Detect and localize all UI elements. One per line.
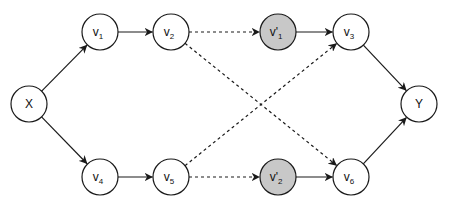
node-label-subscript: 5 [170,177,175,186]
node-label-subscript: 2 [170,32,175,41]
node-v6: v6 [333,159,369,195]
edge-v3-Y [363,45,406,90]
node-label: Y [415,97,423,111]
node-label-subscript: 6 [350,177,355,186]
edge-v5-v3 [185,44,337,166]
node-label-subscript: 1 [278,32,283,41]
node-label-base: X [25,97,33,111]
node-label-subscript: 3 [350,32,355,41]
node-label-base: v' [270,170,278,184]
edge-X-v1 [42,45,87,91]
node-label-subscript: 4 [99,177,104,186]
node-label-subscript: 2 [278,177,283,186]
edges-layer [42,32,407,177]
node-v3: v3 [333,14,369,50]
node-v1p: v'1 [260,14,296,50]
node-v5: v5 [153,159,189,195]
node-v4: v4 [82,159,118,195]
nodes-layer: Xv1v2v'1v3Yv4v5v'2v6 [11,14,437,195]
node-v1: v1 [82,14,118,50]
graph-diagram: Xv1v2v'1v3Yv4v5v'2v6 [0,0,449,209]
node-label: X [25,97,33,111]
node-label-base: Y [415,97,423,111]
edge-X-v4 [42,117,88,164]
node-v2: v2 [153,14,189,50]
node-label-subscript: 1 [99,32,104,41]
node-label-base: v' [270,25,278,39]
edge-v6-Y [363,118,406,164]
node-v2p: v'2 [260,159,296,195]
node-X: X [11,86,47,122]
node-Y: Y [401,86,437,122]
